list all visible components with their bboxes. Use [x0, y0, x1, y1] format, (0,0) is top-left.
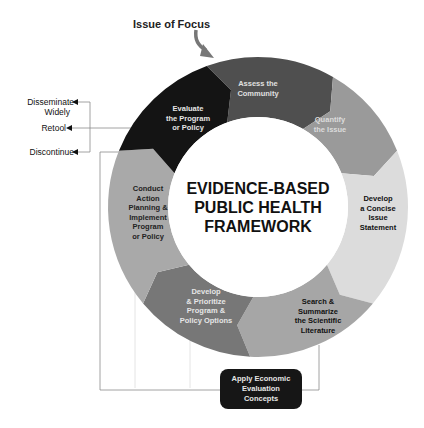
- outcome-disseminate-widely[interactable]: Disseminate Widely: [27, 97, 74, 117]
- issue-of-focus-label: Issue of Focus: [133, 18, 210, 30]
- segment-label-line: a Concise: [360, 204, 396, 214]
- segment-label-line: Develop: [360, 194, 396, 204]
- economic-line: Concepts: [220, 394, 302, 404]
- segment-label-line: Statement: [360, 223, 396, 233]
- segment-label-line: Issue: [360, 213, 396, 223]
- segment-label-line: Assess the: [237, 79, 278, 89]
- title-line: FRAMEWORK: [186, 217, 329, 236]
- segment-label-evaluate[interactable]: Evaluatethe Programor Policy: [166, 104, 210, 133]
- segment-label-line: Summarize: [295, 307, 342, 317]
- segment-label-line: Action: [128, 193, 167, 203]
- outcome-line: Discontinue: [30, 147, 74, 157]
- apply-economic-evaluation-box[interactable]: Apply Economic Evaluation Concepts: [220, 369, 302, 409]
- segment-label-prioritize[interactable]: Develop& PrioritizeProgram &Policy Optio…: [180, 287, 233, 325]
- segment-label-line: the Scientific: [295, 316, 342, 326]
- segment-label-line: the Program: [166, 113, 210, 123]
- outcome-retool[interactable]: Retool: [41, 123, 66, 133]
- segment-label-line: Evaluate: [166, 104, 210, 114]
- segment-label-line: Planning &: [128, 203, 167, 213]
- outcome-line: Widely: [27, 107, 74, 117]
- segment-label-line: or Policy: [166, 123, 210, 133]
- segment-label-line: Quantify: [314, 115, 347, 125]
- outcome-line: Retool: [41, 123, 66, 133]
- segment-label-line: Develop: [180, 287, 233, 297]
- segment-label-line: Literature: [295, 326, 342, 336]
- title-line: EVIDENCE-BASED: [186, 179, 329, 198]
- economic-line: Evaluation: [220, 384, 302, 394]
- segment-label-line: Program: [128, 222, 167, 232]
- segment-label-line: Community: [237, 88, 278, 98]
- framework-title: EVIDENCE-BASED PUBLIC HEALTH FRAMEWORK: [186, 179, 329, 236]
- title-line: PUBLIC HEALTH: [186, 198, 329, 217]
- outcome-line: Disseminate: [27, 97, 74, 107]
- issue-focus-arrow-icon: [196, 30, 214, 58]
- segment-label-concise[interactable]: Developa ConciseIssueStatement: [360, 194, 396, 232]
- segment-label-quantify[interactable]: Quantifythe Issue: [314, 115, 347, 134]
- segment-label-line: Implement: [128, 212, 167, 222]
- segment-label-line: Conduct: [128, 184, 167, 194]
- segment-label-search[interactable]: Search &Summarizethe ScientificLiteratur…: [295, 297, 342, 335]
- outcome-bracket-line: [78, 102, 90, 152]
- segment-label-line: the Issue: [314, 124, 347, 134]
- segment-label-line: Program &: [180, 306, 233, 316]
- outcome-discontinue[interactable]: Discontinue: [30, 147, 74, 157]
- segment-label-line: Search &: [295, 297, 342, 307]
- segment-label-conduct[interactable]: ConductActionPlanning &ImplementProgramo…: [128, 184, 167, 241]
- segment-label-line: or Policy: [128, 231, 167, 241]
- segment-label-line: & Prioritize: [180, 297, 233, 307]
- economic-line: Apply Economic: [220, 374, 302, 384]
- segment-label-line: Policy Options: [180, 316, 233, 326]
- segment-label-assess[interactable]: Assess theCommunity: [237, 79, 278, 98]
- arrow-left-icon: [66, 125, 72, 131]
